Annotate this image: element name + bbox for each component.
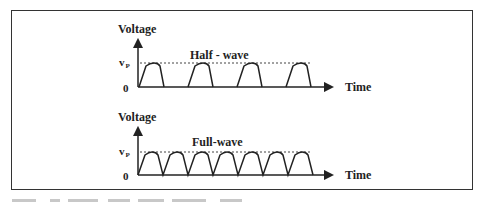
full-wave-pulses xyxy=(138,152,313,175)
caption-remnant xyxy=(10,197,310,202)
cut-off-caption xyxy=(10,197,310,202)
x-axis-label: Time xyxy=(345,80,372,94)
y-axis-label: Voltage xyxy=(118,22,157,36)
half-wave-pulses xyxy=(139,63,311,87)
full-wave-plot: Voltage Time 0 vP Full-wave xyxy=(118,110,372,182)
zero-label: 0 xyxy=(123,82,129,94)
vp-label: vP xyxy=(119,145,131,159)
vp-label: vP xyxy=(119,56,131,70)
rectifier-waveforms-diagram: Voltage Time 0 vP Half - wave Voltage Ti… xyxy=(0,0,484,202)
zero-label: 0 xyxy=(123,170,129,182)
x-axis-label: Time xyxy=(345,168,372,182)
plot-title: Half - wave xyxy=(190,48,249,62)
plot-title: Full-wave xyxy=(192,135,243,149)
y-axis-label: Voltage xyxy=(118,110,157,124)
half-wave-plot: Voltage Time 0 vP Half - wave xyxy=(118,22,372,94)
